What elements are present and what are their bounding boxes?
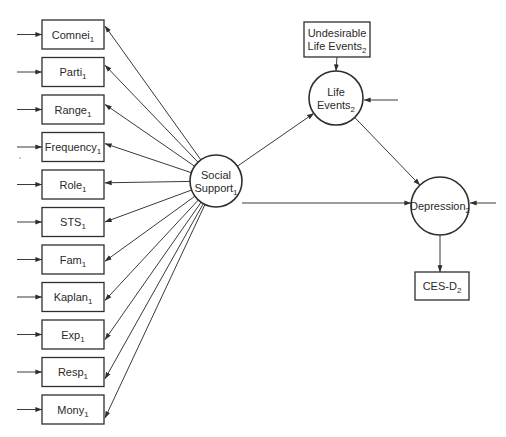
loading-arrow-range (105, 104, 195, 166)
indicator-mony: Mony1 (42, 395, 104, 424)
loading-arrow-kaplan (105, 200, 198, 300)
loading-arrow-resp (105, 204, 203, 379)
loading-arrow-frequency (105, 144, 191, 173)
indicator-comnei: Comnei1 (42, 20, 104, 49)
path-life-events-to-depression (355, 117, 420, 185)
indicator-parti: Parti1 (42, 58, 104, 87)
latent-depression: Depression2 (410, 177, 471, 235)
latent-social_support: SocialSupport1 (190, 155, 242, 207)
indicator-kaplan: Kaplan1 (42, 283, 104, 312)
latent-label: Social (201, 169, 231, 181)
loading-arrow-role (105, 181, 190, 182)
indicator-sts: STS1 (42, 208, 104, 237)
indicator-resp: Resp1 (42, 358, 104, 387)
loading-arrow-mony (105, 205, 205, 418)
latent-group: SocialSupport1LifeEvents2Depression2 (190, 71, 471, 235)
indicator-group: Comnei1Parti1Range1Frequency1Role1STS1Fa… (42, 20, 104, 424)
path-social-to-life-events (237, 113, 313, 166)
indicator-frequency: Frequency1 (42, 133, 104, 162)
scan-dot (19, 157, 21, 159)
loading-arrow-sts (105, 190, 192, 222)
latent-life_events: LifeEvents2 (309, 71, 363, 125)
box-ces_d: CES-D2 (415, 272, 469, 300)
loading-arrow-comnei (105, 26, 201, 160)
indicator-fam: Fam1 (42, 245, 104, 274)
path-diagram: Comnei1Parti1Range1Frequency1Role1STS1Fa… (0, 0, 506, 437)
box-label: Undesirable (308, 27, 367, 39)
latent-label: Life (327, 86, 345, 98)
indicator-role: Role1 (42, 170, 104, 199)
indicator-exp: Exp1 (42, 320, 104, 349)
path-undesirable-to-life-events (336, 57, 337, 71)
loading-arrow-exp (105, 202, 201, 339)
indicator-range: Range1 (42, 95, 104, 124)
other-box-group: UndesirableLife Events2CES-D2 (304, 22, 469, 300)
box-undesirable_life_events: UndesirableLife Events2 (304, 22, 370, 57)
